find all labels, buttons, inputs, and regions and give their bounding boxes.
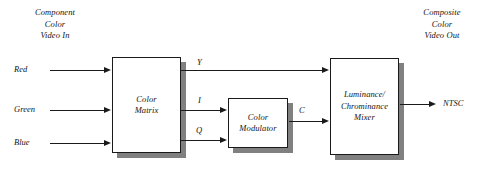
connector-mixer-to-ntsc	[400, 104, 430, 105]
output-caption: Composite Color Video Out	[406, 7, 478, 42]
output-caption-line1: Composite	[406, 7, 478, 19]
input-caption-line1: Component	[19, 7, 91, 19]
block-color-modulator: Color Modulator	[228, 98, 288, 148]
block-color-matrix: Color Matrix	[112, 57, 181, 153]
arrowhead-y-icon	[322, 67, 329, 73]
block-luminance-chrominance-mixer-line2: Chrominance	[341, 101, 388, 113]
connector-blue-to-matrix	[50, 143, 105, 144]
block-color-modulator-line1: Color	[239, 112, 276, 124]
arrowhead-c-icon	[322, 118, 329, 124]
block-color-matrix-line2: Matrix	[135, 105, 159, 117]
ntsc-encoder-block-diagram: Component Color Video In Composite Color…	[0, 0, 486, 176]
connector-c-modulator-to-mixer	[289, 121, 323, 122]
block-color-matrix-line1: Color	[135, 94, 159, 106]
block-color-matrix-label: Color Matrix	[135, 94, 159, 117]
connector-red-to-matrix	[50, 70, 105, 71]
connector-i-matrix-to-modulator	[181, 110, 221, 111]
arrowhead-q-icon	[220, 137, 227, 143]
signal-label-c: C	[299, 105, 305, 115]
input-label-blue: Blue	[14, 137, 30, 147]
output-caption-line3: Video Out	[406, 30, 478, 42]
block-luminance-chrominance-mixer-line1: Luminance/	[341, 89, 388, 101]
connector-green-to-matrix	[50, 110, 105, 111]
output-caption-line2: Color	[406, 19, 478, 31]
signal-label-i: I	[198, 95, 201, 105]
input-label-red: Red	[14, 64, 27, 74]
arrowhead-blue-icon	[104, 140, 111, 146]
block-color-modulator-line2: Modulator	[239, 123, 276, 135]
block-luminance-chrominance-mixer-label: Luminance/ Chrominance Mixer	[341, 89, 388, 124]
input-caption: Component Color Video In	[19, 7, 91, 42]
signal-label-y: Y	[197, 57, 202, 67]
arrowhead-ntsc-icon	[429, 101, 436, 107]
arrowhead-red-icon	[104, 67, 111, 73]
output-label-ntsc: NTSC	[443, 98, 463, 108]
block-color-modulator-label: Color Modulator	[239, 112, 276, 135]
input-caption-line3: Video In	[19, 30, 91, 42]
signal-label-q: Q	[196, 125, 202, 135]
arrowhead-green-icon	[104, 107, 111, 113]
input-caption-line2: Color	[19, 19, 91, 31]
connector-y-matrix-to-mixer	[181, 70, 323, 71]
arrowhead-i-icon	[220, 107, 227, 113]
block-luminance-chrominance-mixer: Luminance/ Chrominance Mixer	[330, 58, 399, 155]
connector-q-matrix-to-modulator	[181, 140, 221, 141]
input-label-green: Green	[14, 104, 35, 114]
block-luminance-chrominance-mixer-line3: Mixer	[341, 112, 388, 124]
